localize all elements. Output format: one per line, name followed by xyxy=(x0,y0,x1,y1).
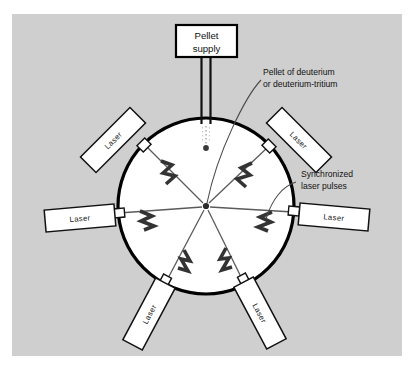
laser-lower-right[interactable]: Laser xyxy=(234,277,286,349)
pulses-callout-line2: laser pulses xyxy=(301,181,347,191)
diagram-canvas: Pellet supply xyxy=(0,0,414,376)
nozzle-right xyxy=(288,206,300,216)
figure-root: Pellet supply xyxy=(0,0,414,376)
laser-left[interactable]: Laser xyxy=(44,204,116,232)
pellet-supply-line1: Pellet xyxy=(195,30,219,41)
laser-right[interactable]: Laser xyxy=(298,203,370,231)
pellet-dot xyxy=(203,145,209,151)
laser-left-label: Laser xyxy=(69,213,91,224)
pellet-supply-line2: supply xyxy=(193,43,221,54)
pellet-callout-line1: Pellet of deuterium xyxy=(263,67,335,77)
pellet-supply-tube xyxy=(202,57,211,124)
pellet-callout-line2: or deuterium-tritium xyxy=(263,79,338,89)
pellet-callout: Pellet of deuterium or deuterium-tritium xyxy=(263,67,338,89)
fusion-target-point xyxy=(203,203,209,209)
laser-lower-left[interactable]: Laser xyxy=(123,278,175,350)
laser-right-label: Laser xyxy=(323,212,345,223)
pulses-callout: Synchronized laser pulses xyxy=(301,169,353,191)
pellet-supply-box[interactable]: Pellet supply xyxy=(176,25,237,57)
pulses-callout-line1: Synchronized xyxy=(301,169,353,179)
